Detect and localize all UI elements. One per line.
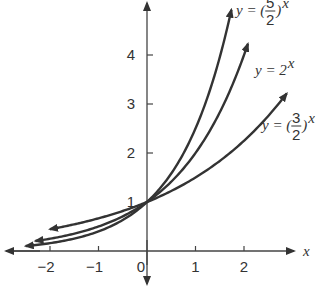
curves [26, 10, 287, 246]
svg-text:2: 2 [266, 11, 274, 28]
x-axis-label: x [302, 243, 310, 259]
label-y-5-2-x: y = (52)x [234, 0, 289, 28]
curve-labels: y = (52)xy = 2xy = (32)x [234, 0, 315, 143]
svg-text:3: 3 [292, 109, 300, 126]
svg-text:): ) [301, 117, 307, 134]
exponential-chart: −2−10121234x y = (52)xy = 2xy = (32)x [0, 0, 316, 286]
x-tick-label: −2 [37, 258, 54, 275]
svg-text:2: 2 [292, 126, 300, 143]
y-tick-label: 3 [127, 95, 135, 112]
svg-text:x: x [281, 0, 289, 11]
svg-text:y = (: y = ( [234, 2, 266, 19]
svg-text:y = (: y = ( [260, 117, 292, 134]
svg-text:x: x [307, 110, 315, 126]
x-tick-label: 2 [240, 258, 248, 275]
x-tick-label: 1 [191, 258, 199, 275]
y-tick-label: 4 [127, 46, 135, 63]
svg-text:5: 5 [266, 0, 274, 11]
svg-text:): ) [275, 2, 281, 19]
svg-text:x: x [287, 55, 295, 71]
label-y-3-2-x: y = (32)x [260, 109, 315, 143]
x-tick-label: −1 [86, 258, 103, 275]
label-y-2-x: y = 2x [253, 55, 295, 78]
curve-2.5 [147, 10, 231, 202]
x-tick-label: 0 [137, 258, 145, 275]
svg-text:y = 2: y = 2 [253, 62, 287, 78]
y-tick-label: 2 [127, 144, 135, 161]
